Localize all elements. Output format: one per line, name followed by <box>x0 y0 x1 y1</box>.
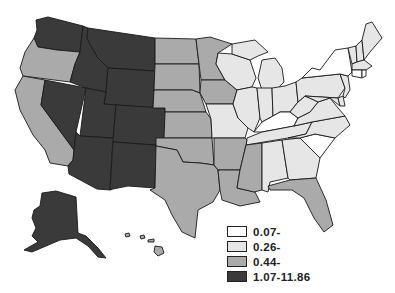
state-maine <box>362 22 382 60</box>
state-michigan <box>258 58 284 90</box>
state-hawaii-island-2 <box>140 235 145 239</box>
legend-swatch <box>227 241 247 252</box>
legend-label: 0.44- <box>253 256 281 268</box>
legend-swatch <box>227 271 247 282</box>
legend-swatch <box>227 226 247 237</box>
legend-item: 0.26- <box>227 239 310 254</box>
state-rhode-island <box>362 70 366 78</box>
state-kansas <box>164 112 212 138</box>
legend-label: 0.07- <box>253 226 281 238</box>
state-new-york <box>302 48 352 78</box>
legend-label: 1.07-11.86 <box>253 271 310 283</box>
state-washington <box>34 17 83 52</box>
state-connecticut <box>352 70 362 78</box>
legend-item: 0.44- <box>227 254 310 269</box>
state-alaska <box>24 191 106 258</box>
state-hawaii-island-3 <box>148 239 154 242</box>
state-wyoming <box>104 68 155 108</box>
us-choropleth-map <box>0 0 395 293</box>
legend-item: 1.07-11.86 <box>227 269 310 284</box>
legend-swatch <box>227 256 247 267</box>
state-north-dakota <box>155 38 199 64</box>
legend-label: 0.26- <box>253 241 281 253</box>
legend: 0.07- 0.26- 0.44- 1.07-11.86 <box>227 224 310 284</box>
state-south-dakota <box>154 64 200 93</box>
state-arizona <box>68 132 113 190</box>
legend-item: 0.07- <box>227 224 310 239</box>
state-hawaii <box>125 233 130 237</box>
state-hawaii-island-4 <box>154 246 164 256</box>
state-new-mexico <box>110 142 156 190</box>
